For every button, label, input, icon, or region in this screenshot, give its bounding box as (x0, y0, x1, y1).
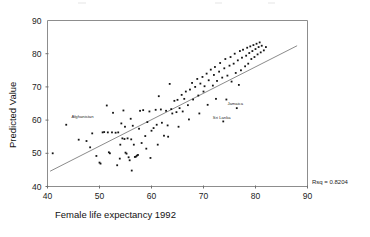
data-point (52, 152, 54, 154)
data-point (130, 138, 132, 140)
data-point (165, 110, 167, 112)
data-point (194, 86, 196, 88)
data-point (238, 84, 240, 86)
data-point (91, 132, 93, 134)
data-point (227, 75, 229, 77)
data-point (203, 91, 205, 93)
data-point (116, 164, 118, 166)
data-point (163, 135, 165, 137)
x-axis-title: Female life expectancy 1992 (55, 209, 176, 220)
data-point (260, 51, 262, 53)
data-point (167, 136, 169, 138)
data-point (183, 98, 185, 100)
y-axis-tick-labels: 405060708090 (32, 16, 42, 192)
x-axis-tick-labels: 405060708090 (43, 191, 313, 201)
data-point (78, 139, 80, 141)
y-tick-label: 80 (32, 49, 42, 59)
data-point (250, 58, 252, 60)
data-point (157, 144, 159, 146)
data-point (237, 59, 239, 61)
x-tick-label: 90 (303, 191, 313, 201)
data-point (219, 62, 221, 64)
scatter-plot-figure: 405060708090 405060708090 Rsq = 0.8204Af… (0, 0, 370, 237)
data-point (222, 121, 224, 123)
data-point (242, 49, 244, 51)
y-tick-label: 50 (32, 148, 42, 158)
data-point (261, 45, 263, 47)
point-label: Sri Lanka (213, 115, 231, 120)
y-tick-label: 90 (32, 16, 42, 26)
data-point (254, 56, 256, 58)
data-point (130, 118, 132, 120)
y-axis-title: Predicted Value (7, 82, 18, 148)
data-point (117, 131, 119, 133)
data-point (214, 66, 216, 68)
data-point (259, 42, 261, 44)
data-point (204, 85, 206, 87)
data-point (146, 121, 148, 123)
data-point (139, 110, 141, 112)
data-point (156, 124, 158, 126)
data-point (235, 72, 237, 74)
data-point (109, 152, 111, 154)
data-point (149, 111, 151, 113)
data-point (197, 95, 199, 97)
data-point (181, 94, 183, 96)
x-tick-label: 40 (43, 191, 53, 201)
data-point (257, 53, 259, 55)
point-label: Afghanistan (71, 114, 94, 119)
data-point (86, 140, 88, 142)
data-point (247, 63, 249, 65)
data-point (95, 155, 97, 157)
data-point (215, 98, 217, 100)
y-tick-label: 40 (32, 182, 42, 192)
data-point (221, 77, 223, 79)
data-point (223, 67, 225, 69)
data-point (120, 123, 122, 125)
data-point (138, 128, 140, 130)
x-tick-label: 50 (95, 191, 105, 201)
data-point (129, 159, 131, 161)
data-point (187, 104, 189, 106)
data-point (145, 148, 147, 150)
data-point (185, 91, 187, 93)
data-point (218, 71, 220, 73)
data-point (144, 135, 146, 137)
data-point (123, 110, 125, 112)
data-point (65, 124, 67, 126)
data-point (171, 113, 173, 115)
plot-svg: 405060708090 405060708090 Rsq = 0.8204Af… (0, 0, 370, 237)
rsq-annotation: Rsq = 0.8204 (312, 179, 349, 185)
x-tick-label: 70 (199, 191, 209, 201)
data-point (160, 109, 162, 111)
data-point (107, 131, 109, 133)
data-point (106, 105, 108, 107)
data-point (191, 82, 193, 84)
data-point (245, 55, 247, 57)
data-point (169, 83, 171, 85)
top-artifacts (78, 2, 275, 4)
data-point (137, 154, 139, 156)
data-point (153, 127, 155, 129)
data-point (158, 95, 160, 97)
data-point (255, 48, 257, 50)
data-point (133, 144, 135, 146)
data-point (253, 44, 255, 46)
data-point (124, 126, 126, 128)
data-point (208, 79, 210, 81)
data-point (111, 131, 113, 133)
data-point (189, 89, 191, 91)
data-point (206, 73, 208, 75)
data-point (179, 107, 181, 109)
data-point (119, 158, 121, 160)
data-point (249, 45, 251, 47)
data-point (256, 43, 258, 45)
data-point (210, 69, 212, 71)
data-point (216, 80, 218, 82)
data-point (131, 170, 133, 172)
data-point (142, 109, 144, 111)
data-point (212, 85, 214, 87)
data-point (233, 63, 235, 65)
data-point (229, 65, 231, 67)
data-point (265, 46, 267, 48)
